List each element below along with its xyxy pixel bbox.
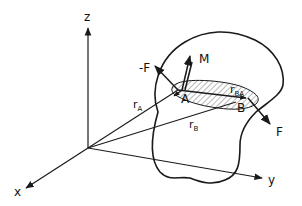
y-axis [88,148,262,178]
rB-sub: B [194,125,199,133]
moment-label: M [199,52,209,66]
x-axis [26,148,88,188]
rigid-body-diagram: z y x -F M F A B rA rB rBA [0,0,302,206]
rB-label: rB [189,118,199,133]
rA-label: rA [133,98,143,113]
point-a-label: A [181,92,190,106]
rBA-sub: BA [235,90,245,98]
neg-force-vector [155,66,178,90]
force-vector [248,98,270,124]
z-axis-label: z [84,10,90,24]
y-axis-label: y [268,173,275,187]
neg-force-label: -F [139,61,150,75]
force-label: F [276,125,283,139]
point-b-label: B [237,101,245,115]
rB-vector [88,102,236,148]
x-axis-label: x [14,185,21,199]
rA-sub: A [138,105,143,113]
